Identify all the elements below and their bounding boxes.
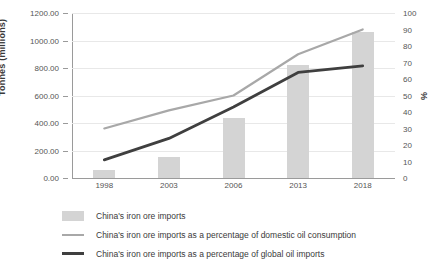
y-tick-right-label: 30 [403, 124, 412, 133]
y-tick-left-mark [63, 68, 68, 69]
y-tick-right-label: 90 [403, 25, 412, 34]
y-tick-left-mark [63, 13, 68, 14]
legend-item-1[interactable]: China's iron ore imports [62, 206, 422, 225]
y-axis-left-ticks: 0.00200.00400.00600.00800.001000.001200.… [0, 13, 68, 178]
chart-legend: China's iron ore importsChina's iron ore… [62, 206, 422, 263]
y-axis-right-ticks: 0102030405060708090100 [403, 13, 429, 178]
y-tick-left-mark [63, 151, 68, 152]
legend-item-2[interactable]: China's iron ore imports as a percentage… [62, 225, 422, 244]
x-tick-label-2018: 2018 [354, 181, 372, 190]
x-axis-ticks: 19982003200620132018 [72, 181, 395, 195]
legend-item-3[interactable]: China's iron ore imports as a percentage… [62, 244, 422, 263]
x-tick-label-2003: 2003 [160, 181, 178, 190]
x-tick-label-2006: 2006 [225, 181, 243, 190]
y-tick-right-label: 80 [403, 42, 412, 51]
y-tick-left-mark [63, 41, 68, 42]
y-tick-left-mark [63, 96, 68, 97]
y-tick-left-label: 1200.00 [30, 9, 59, 18]
y-tick-right-label: 60 [403, 75, 412, 84]
gridline [72, 178, 395, 179]
legend-box-swatch-icon [62, 211, 84, 221]
x-tick-label-2013: 2013 [289, 181, 307, 190]
y-tick-left-mark [63, 123, 68, 124]
y-tick-right-label: 20 [403, 141, 412, 150]
y-tick-right-label: 0 [403, 174, 407, 183]
y-tick-right-label: 10 [403, 157, 412, 166]
y-tick-right-label: 40 [403, 108, 412, 117]
y-tick-left-label: 1000.00 [30, 36, 59, 45]
line-series-1 [104, 30, 362, 129]
line-series-layer [72, 13, 395, 178]
x-tick-label-1998: 1998 [95, 181, 113, 190]
chart-container: Tonnes (millions) % 0.00200.00400.00600.… [0, 0, 430, 270]
y-tick-left-label: 0.00 [43, 174, 59, 183]
legend-item-label: China's iron ore imports [96, 211, 186, 221]
plot-area [72, 13, 395, 178]
legend-item-label: China's iron ore imports as a percentage… [96, 249, 324, 259]
y-tick-right-label: 70 [403, 58, 412, 67]
y-tick-right-label: 100 [403, 9, 416, 18]
legend-item-label: China's iron ore imports as a percentage… [96, 230, 356, 240]
y-tick-left-label: 800.00 [35, 64, 59, 73]
y-tick-left-label: 600.00 [35, 91, 59, 100]
line-series-2 [104, 66, 362, 160]
y-tick-left-label: 200.00 [35, 146, 59, 155]
y-tick-right-label: 50 [403, 91, 412, 100]
y-tick-left-mark [63, 178, 68, 179]
y-tick-left-label: 400.00 [35, 119, 59, 128]
